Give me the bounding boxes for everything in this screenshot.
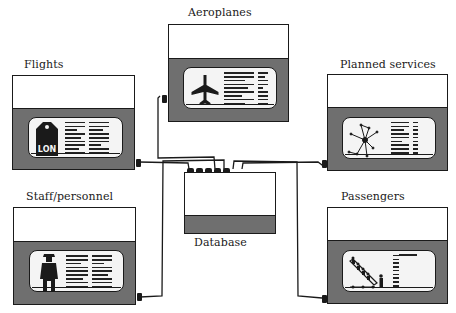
node-label-planned-services: Planned services — [340, 58, 436, 71]
terminal-header — [14, 208, 135, 242]
connector-port — [136, 159, 141, 167]
terminal-header — [328, 208, 447, 241]
plug — [187, 168, 194, 172]
terminal-screen — [342, 117, 436, 159]
plug — [205, 168, 212, 172]
terminal-screen — [342, 250, 436, 292]
node-label-aeroplanes: Aeroplanes — [188, 6, 252, 19]
terminal-screen — [183, 67, 277, 109]
terminal-header — [169, 25, 288, 59]
terminal-header — [13, 76, 134, 109]
luggage-tag-icon: LON — [35, 121, 59, 157]
connector-port — [137, 293, 142, 301]
tag-text: LON — [37, 145, 55, 154]
plug — [214, 168, 221, 172]
plug — [196, 168, 203, 172]
connector-port — [322, 295, 327, 303]
database-node — [184, 172, 276, 234]
node-label-database: Database — [194, 236, 247, 249]
connector-port — [322, 160, 327, 168]
terminal-screen: LON — [28, 117, 124, 158]
route-network-icon — [347, 122, 385, 158]
terminal-header — [328, 75, 447, 108]
terminal-passengers — [327, 207, 448, 304]
pilot-figure-icon — [38, 253, 60, 292]
boarding-stairs-icon — [347, 255, 387, 291]
node-label-passengers: Passengers — [341, 190, 405, 203]
plug — [223, 168, 230, 172]
terminal-planned-services — [327, 74, 448, 171]
terminal-staff-personnel — [13, 207, 136, 305]
node-label-flights: Flights — [24, 58, 64, 71]
aeroplane-icon — [190, 74, 220, 106]
terminal-aeroplanes — [168, 24, 289, 122]
terminal-flights: LON — [12, 75, 135, 170]
terminal-screen — [29, 250, 125, 292]
node-label-staff-personnel: Staff/personnel — [26, 190, 113, 203]
connector-port — [162, 95, 167, 103]
database-band — [185, 215, 275, 233]
